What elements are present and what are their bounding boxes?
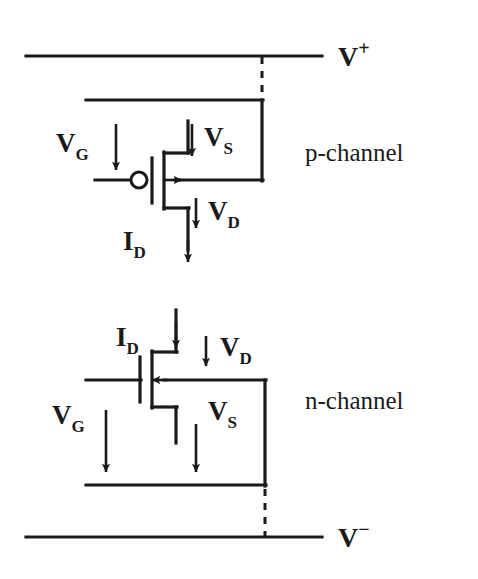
n-id-sub: D [127,339,139,358]
p-channel-gate-bubble-icon [131,172,147,188]
negative-supply-rail-group: V− [26,489,370,553]
p-vg-base: V [56,128,76,158]
n-channel-drain-current-label: ID [116,322,139,358]
p-channel-drain-current-label: ID [123,226,146,262]
n-channel-drain-voltage-label: VD [220,332,252,368]
p-vg-sub: G [76,145,89,164]
p-channel-caption: p-channel [305,139,404,166]
p-vd-sub: D [228,213,240,232]
positive-rail-label-base: V [338,41,358,72]
n-channel-gate-voltage-label: VG [52,400,85,436]
n-vs-base: V [208,396,228,426]
n-channel-caption: n-channel [305,387,404,414]
p-channel-gate-voltage-label: VG [56,128,89,164]
positive-supply-rail-group: V+ [26,37,370,99]
negative-rail-label-base: V [338,522,358,553]
n-channel-section: ID VD VG VS n-channel [52,310,404,486]
p-vs-sub: S [224,139,233,158]
n-id-base: I [116,322,127,352]
positive-rail-label-sign: + [358,37,369,59]
n-vs-sub: S [228,413,237,432]
p-id-sub: D [134,243,146,262]
p-vs-base: V [204,122,224,152]
n-vd-base: V [220,332,240,362]
n-vg-base: V [52,400,72,430]
n-vg-sub: G [72,417,85,436]
p-id-base: I [123,226,134,256]
p-vd-base: V [208,196,228,226]
n-vd-sub: D [240,349,252,368]
schematic-canvas: V+ [0,0,478,579]
p-channel-source-voltage-label: VS [204,122,233,158]
negative-rail-label-sign: − [358,518,369,540]
positive-rail-label: V+ [338,37,370,72]
p-channel-drain-voltage-label: VD [208,196,240,232]
negative-rail-label: V− [338,518,370,553]
p-channel-section: VG VS VD ID p-channel [56,100,404,262]
n-channel-source-voltage-label: VS [208,396,237,432]
circuit-diagram-figure: V+ [0,0,478,579]
